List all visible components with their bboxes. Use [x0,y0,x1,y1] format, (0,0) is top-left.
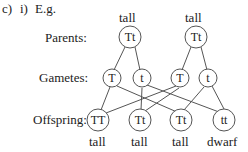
gamete-1-allele: T [108,71,116,85]
parent-1-genotype: Tt [125,30,136,44]
gamete-3-node: T [171,69,189,87]
offspring-1-node: TT [87,109,109,131]
gamete-1-node: T [103,69,121,87]
gamete-3-allele: T [176,71,184,85]
offspring-1-phenotype: tall [89,135,106,149]
genetic-cross-diagram: Tt Tt T t T t TT Tt Tt tt [0,0,248,152]
offspring-2-genotype: Tt [135,113,146,127]
parent-1-node: Tt [119,26,141,48]
offspring-2-node: Tt [129,109,151,131]
offspring-4-genotype: tt [221,113,228,127]
offspring-3-phenotype: tall [172,135,189,149]
gamete-2-node: t [133,69,151,87]
offspring-3-genotype: Tt [176,113,187,127]
offspring-1-genotype: TT [91,113,106,127]
gamete-4-node: t [199,69,217,87]
offspring-2-phenotype: tall [131,135,148,149]
offspring-4-phenotype: dwarf [207,135,237,149]
parent-2-node: Tt [185,26,207,48]
offspring-4-node: tt [213,109,235,131]
offspring-3-node: Tt [170,109,192,131]
parent-2-genotype: Tt [191,30,202,44]
